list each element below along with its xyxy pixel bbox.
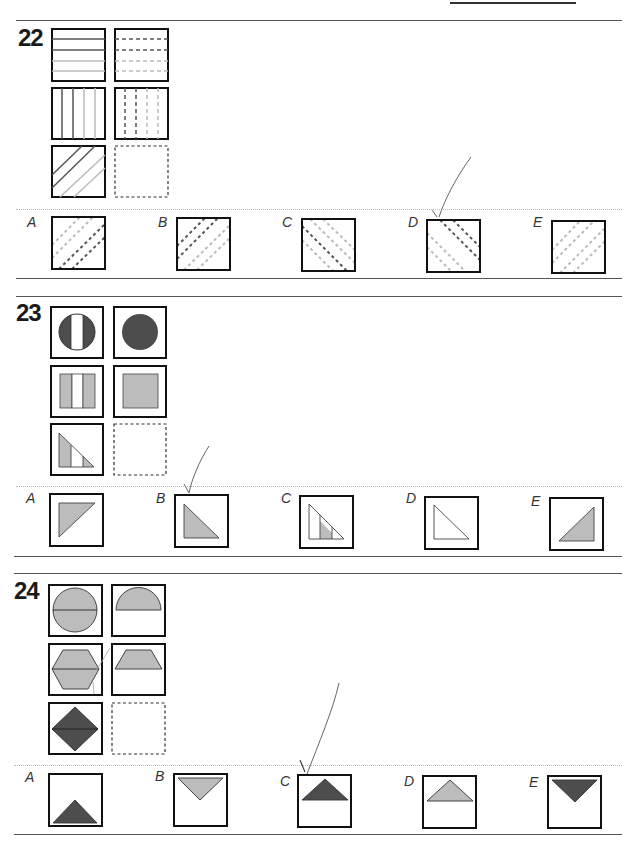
option-a: [49, 774, 102, 826]
question-24-options[interactable]: [0, 0, 637, 844]
option-b: [174, 774, 227, 826]
section-rule-bottom: [14, 834, 622, 835]
option-d: [423, 776, 476, 828]
option-e: [548, 776, 601, 828]
pencil-mark: [307, 683, 339, 774]
option-c: [298, 775, 351, 827]
